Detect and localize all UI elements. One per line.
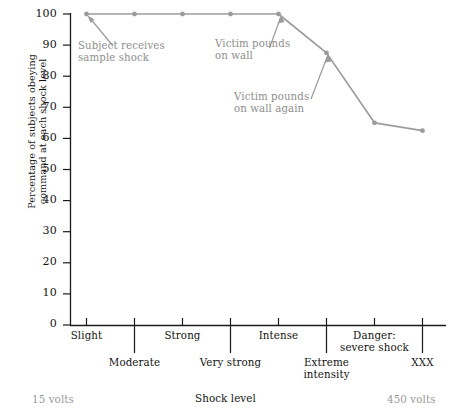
y-tick-label-50: 50 bbox=[31, 162, 57, 175]
arrowhead-2 bbox=[278, 16, 285, 24]
annotation-1-line1: Subject receives bbox=[78, 40, 165, 52]
y-tick-label-20: 20 bbox=[31, 255, 57, 268]
y-tick-label-30: 30 bbox=[31, 224, 57, 237]
y-tick-label-10: 10 bbox=[31, 286, 57, 299]
data-point bbox=[228, 12, 233, 17]
annotation-victim-pounds-on-wall: Victim pounds on wall bbox=[215, 38, 290, 62]
y-tick-label-80: 80 bbox=[31, 69, 57, 82]
annotation-victim-pounds-on-wall-again: Victim pounds on wall again bbox=[234, 91, 309, 115]
y-tick-label-100: 100 bbox=[31, 7, 57, 20]
x-tick-label-slight: Slight bbox=[46, 330, 127, 342]
x-tick-label-danger-line1: Danger: bbox=[333, 330, 416, 342]
y-tick-label-90: 90 bbox=[31, 38, 57, 51]
x-tick-label-danger-severe-shock: Danger: severe shock bbox=[333, 330, 416, 353]
x-tick-label-moderate: Moderate bbox=[94, 357, 175, 369]
annotation-1-line2: sample shock bbox=[78, 52, 165, 64]
annotation-2-line2: on wall bbox=[215, 50, 290, 62]
y-tick-label-60: 60 bbox=[31, 131, 57, 144]
annotation-2-line1: Victim pounds bbox=[215, 38, 290, 50]
y-tick-label-70: 70 bbox=[31, 100, 57, 113]
footer-label-start-volts: 15 volts bbox=[32, 393, 74, 405]
annotation-subject-receives-sample-shock: Subject receives sample shock bbox=[78, 40, 165, 64]
x-axis-title: Shock level bbox=[195, 392, 256, 404]
annotation-arrow-3 bbox=[311, 56, 328, 99]
data-point bbox=[84, 12, 89, 17]
annotation-3-line1: Victim pounds bbox=[234, 91, 309, 103]
chart-canvas bbox=[0, 0, 453, 416]
x-tick-label-xxx: XXX bbox=[382, 357, 453, 369]
data-point bbox=[180, 12, 185, 17]
annotation-3-line2: on wall again bbox=[234, 103, 309, 115]
x-tick-label-extreme-line1: Extreme bbox=[286, 357, 367, 369]
y-tick-label-0: 0 bbox=[31, 317, 57, 330]
data-point bbox=[276, 12, 281, 17]
chart-figure: Percentage of subjects obeying command a… bbox=[0, 0, 453, 416]
x-tick-label-extreme-intensity: Extreme intensity bbox=[286, 357, 367, 380]
data-point bbox=[420, 128, 425, 133]
x-tick-label-very-strong: Very strong bbox=[190, 357, 271, 369]
x-tick-label-extreme-line2: intensity bbox=[286, 369, 367, 381]
y-tick-marks bbox=[63, 14, 70, 325]
x-tick-label-danger-line2: severe shock bbox=[333, 342, 416, 354]
y-tick-label-40: 40 bbox=[31, 193, 57, 206]
footer-label-end-volts: 450 volts bbox=[387, 393, 436, 405]
data-point bbox=[132, 12, 137, 17]
data-point bbox=[372, 120, 377, 125]
x-tick-label-intense: Intense bbox=[238, 330, 319, 342]
x-tick-label-strong: Strong bbox=[142, 330, 223, 342]
